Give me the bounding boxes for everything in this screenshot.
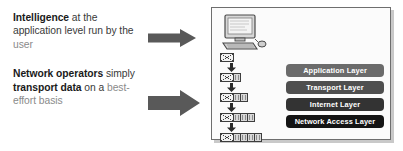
packet-row bbox=[220, 132, 306, 143]
text-run-bold: Intelligence bbox=[13, 12, 69, 23]
text-run-bold: transport data bbox=[13, 82, 82, 93]
block-arrow-top bbox=[148, 29, 196, 47]
layer-bar-transport[interactable]: Transport Layer bbox=[286, 81, 384, 94]
layer-bar-network-access[interactable]: Network Access Layer bbox=[286, 115, 384, 128]
paragraph-network-operators: Network operators simply transport data … bbox=[13, 67, 143, 107]
explanatory-text-column: Intelligence at the application level ru… bbox=[13, 11, 143, 107]
header-block bbox=[241, 113, 248, 122]
envelope-icon bbox=[220, 113, 234, 122]
header-block bbox=[248, 113, 255, 122]
text-run-bold: Network operators bbox=[13, 68, 103, 79]
header-block bbox=[255, 133, 262, 142]
header-block bbox=[234, 73, 241, 82]
text-run-regular: simply bbox=[103, 68, 135, 79]
envelope-icon bbox=[220, 53, 234, 62]
paragraph-intelligence: Intelligence at the application level ru… bbox=[13, 11, 143, 51]
slide-canvas: Intelligence at the application level ru… bbox=[0, 0, 403, 151]
header-block bbox=[234, 133, 241, 142]
header-block bbox=[234, 113, 241, 122]
block-arrow-bottom bbox=[148, 90, 200, 116]
desktop-computer-icon bbox=[221, 13, 269, 53]
envelope-icon bbox=[220, 73, 234, 82]
protocol-layer-stack: Application Layer Transport Layer Intern… bbox=[286, 64, 384, 132]
header-block bbox=[248, 133, 255, 142]
text-run-gray: user bbox=[13, 39, 33, 50]
packet-row bbox=[220, 52, 306, 63]
tcpip-model-panel: Application Layer Transport Layer Intern… bbox=[211, 7, 391, 140]
header-block bbox=[241, 133, 248, 142]
header-block bbox=[234, 93, 241, 102]
header-block bbox=[241, 93, 248, 102]
envelope-icon bbox=[220, 133, 234, 142]
text-run-regular: on a bbox=[82, 82, 107, 93]
layer-bar-application[interactable]: Application Layer bbox=[286, 64, 384, 77]
layer-bar-internet[interactable]: Internet Layer bbox=[286, 98, 384, 111]
envelope-icon bbox=[220, 93, 234, 102]
